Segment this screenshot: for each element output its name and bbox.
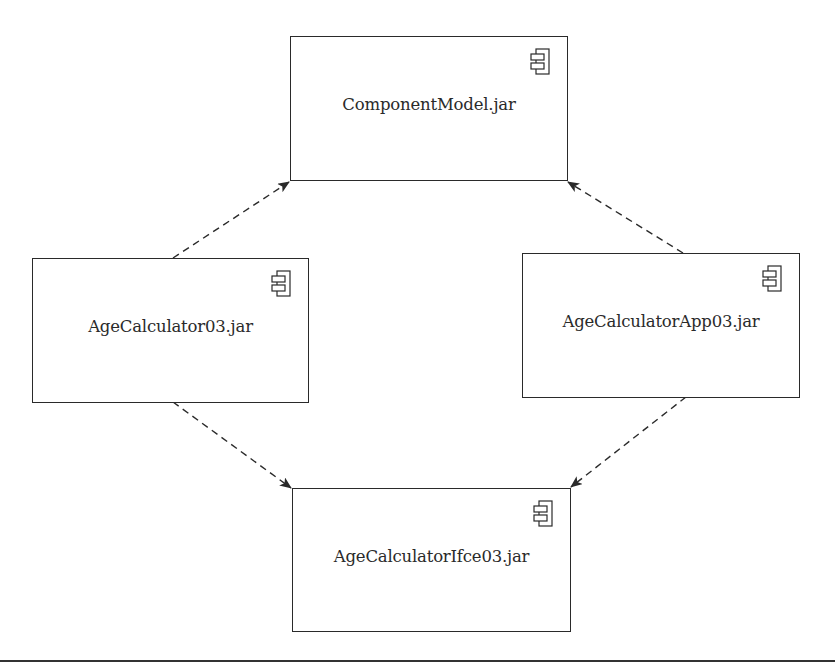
component-label: AgeCalculatorIfce03.jar	[293, 547, 570, 566]
uml-component-icon	[761, 265, 783, 292]
dependency-agecalcapp-to-agecalcifce	[571, 397, 686, 487]
component-diagram: ComponentModel.jar AgeCalculator03.jar A…	[0, 0, 835, 669]
component-componentmodel[interactable]: ComponentModel.jar	[290, 36, 568, 181]
uml-component-icon	[270, 270, 292, 297]
uml-component-icon	[529, 48, 551, 75]
component-label: AgeCalculatorApp03.jar	[523, 312, 799, 331]
dependency-agecalc-to-agecalcifce	[173, 402, 291, 488]
dependency-agecalc-to-componentmodel	[173, 182, 289, 258]
component-agecalculatorifce[interactable]: AgeCalculatorIfce03.jar	[292, 488, 571, 632]
uml-component-icon	[532, 500, 554, 527]
horizontal-divider	[0, 660, 835, 662]
component-label: ComponentModel.jar	[291, 95, 567, 114]
dependency-agecalcapp-to-componentmodel	[568, 182, 683, 253]
component-agecalculatorapp[interactable]: AgeCalculatorApp03.jar	[522, 253, 800, 398]
component-agecalculator[interactable]: AgeCalculator03.jar	[32, 258, 309, 403]
component-label: AgeCalculator03.jar	[33, 317, 308, 336]
